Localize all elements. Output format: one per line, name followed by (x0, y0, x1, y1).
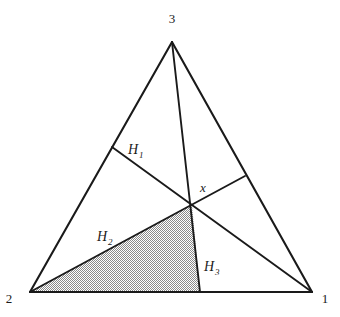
region-label-h2-subscript: 2 (108, 237, 113, 247)
region-label-h2-main: H (96, 229, 108, 244)
vertex-label-3: 3 (169, 11, 176, 26)
region-label-h3: H 3 (203, 259, 220, 277)
region-label-h3-subscript: 3 (214, 267, 220, 277)
region-label-h1-main: H (127, 142, 139, 157)
vertex-label-2: 2 (6, 291, 13, 306)
region-label-h1-subscript: 1 (139, 150, 144, 160)
region-label-h2: H 2 (96, 229, 113, 247)
vertex-label-1: 1 (322, 291, 329, 306)
region-label-h3-main: H (203, 259, 215, 274)
region-label-h1: H 1 (127, 142, 144, 160)
point-label-x: x (199, 180, 206, 195)
triangle-diagram: 1 2 3 x H 1 H 2 H 3 (0, 0, 340, 317)
